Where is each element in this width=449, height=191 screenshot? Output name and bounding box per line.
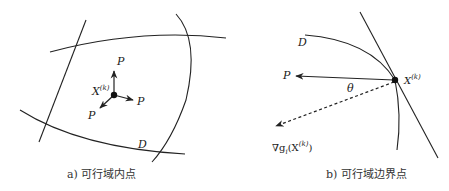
- k-superscript: (k): [411, 73, 421, 81]
- caption-b: b) 可行域边界点: [326, 169, 407, 180]
- panel-b-vectors: [276, 76, 394, 126]
- label-region-d-b: D: [298, 37, 307, 48]
- label-gradient: ∇gi(X(k)): [272, 141, 312, 156]
- label-p-direction: P: [283, 70, 290, 81]
- bottom-constraint-curve: [20, 110, 185, 154]
- label-x-k-interior: X(k): [92, 85, 110, 97]
- point-x-k-interior: [111, 92, 117, 98]
- right-constraint-curve: [152, 14, 191, 162]
- x-symbol: X: [92, 85, 100, 98]
- label-x-k-boundary: X(k): [404, 74, 421, 86]
- label-p-right: P: [137, 96, 144, 107]
- gradient-arrow-dashed: [276, 82, 394, 126]
- label-region-d-a: D: [138, 139, 147, 150]
- label-theta: θ: [347, 83, 354, 94]
- gradient-argument: (X: [288, 142, 299, 153]
- panel-a-boundaries: [20, 14, 226, 162]
- nabla-g-symbol: ∇g: [272, 142, 285, 153]
- label-p-up: P: [117, 56, 124, 67]
- label-p-down-left: P: [88, 110, 95, 121]
- caption-a: a) 可行域内点: [67, 169, 136, 180]
- k-superscript: (k): [100, 84, 110, 92]
- diagram-canvas: [0, 0, 449, 191]
- point-x-k-boundary: [392, 77, 398, 83]
- gradient-close-paren: ): [308, 142, 312, 153]
- direction-arrow-p: [296, 76, 394, 80]
- k-superscript: (k): [299, 140, 309, 148]
